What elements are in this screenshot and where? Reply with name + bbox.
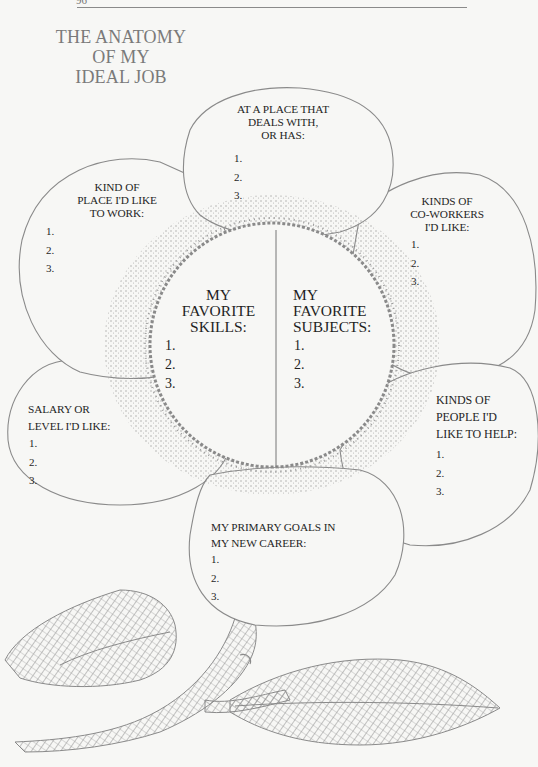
petal-lower-right-items: 1. 2. 3. — [436, 448, 444, 504]
petal-top-label: AT A PLACE THAT DEALS WITH, OR HAS: — [228, 103, 338, 142]
list-item[interactable]: 2. — [294, 357, 305, 376]
center-skills-label: MY FAVORITE SKILLS: — [180, 287, 257, 335]
list-item[interactable]: 3. — [294, 376, 305, 395]
label-line: DEALS WITH, — [228, 116, 338, 129]
label-line: PEOPLE I'D — [436, 409, 517, 426]
petal-bottom-items: 1. 2. 3. — [211, 553, 219, 609]
label-line: KIND OF — [62, 181, 172, 194]
label-line: MY — [293, 287, 371, 303]
label-line: AT A PLACE THAT — [228, 103, 338, 116]
list-item[interactable]: 2. — [211, 572, 219, 591]
list-item[interactable]: 1. — [411, 238, 419, 257]
list-item[interactable]: 1. — [234, 152, 242, 171]
petal-upper-left-label: KIND OF PLACE I'D LIKE TO WORK: — [62, 181, 172, 220]
list-item[interactable]: 1. — [294, 338, 305, 357]
list-item[interactable]: 1. — [211, 553, 219, 572]
label-line: LIKE TO HELP: — [436, 426, 517, 443]
list-item[interactable]: 2. — [436, 467, 444, 486]
petal-lower-left-items: 1. 2. 3. — [29, 437, 37, 493]
label-line: SUBJECTS: — [293, 319, 371, 335]
label-line: FAVORITE — [293, 303, 371, 319]
petal-top-items: 1. 2. 3. — [234, 152, 242, 208]
label-line: OR HAS: — [228, 129, 338, 142]
list-item[interactable]: 3. — [436, 485, 444, 504]
petal-bottom-label: MY PRIMARY GOALS IN MY NEW CAREER: — [211, 519, 335, 551]
list-item[interactable]: 1. — [436, 448, 444, 467]
center-subjects-label: MY FAVORITE SUBJECTS: — [293, 287, 371, 335]
label-line: PLACE I'D LIKE — [62, 194, 172, 207]
list-item[interactable]: 2. — [46, 244, 54, 263]
list-item[interactable]: 1. — [29, 437, 37, 456]
center-disc — [150, 223, 394, 467]
list-item[interactable]: 1. — [165, 338, 176, 357]
petal-lower-right-label: KINDS OF PEOPLE I'D LIKE TO HELP: — [436, 392, 517, 443]
list-item[interactable]: 3. — [211, 590, 219, 609]
petal-upper-left-items: 1. 2. 3. — [46, 225, 54, 281]
list-item[interactable]: 3. — [234, 189, 242, 208]
list-item[interactable]: 2. — [165, 357, 176, 376]
list-item[interactable]: 3. — [165, 376, 176, 395]
label-line: CO-WORKERS — [392, 208, 502, 221]
label-line: SALARY OR — [28, 403, 110, 416]
label-line: FAVORITE — [180, 303, 257, 319]
petal-upper-right-items: 1. 2. 3. — [411, 238, 419, 294]
label-line: KINDS OF — [392, 195, 502, 208]
petal-upper-right-label: KINDS OF CO-WORKERS I'D LIKE: — [392, 195, 502, 234]
label-line: SKILLS: — [180, 319, 257, 335]
center-skills-items: 1. 2. 3. — [165, 338, 176, 395]
label-line: MY PRIMARY GOALS IN — [211, 519, 335, 535]
center-subjects-items: 1. 2. 3. — [294, 338, 305, 395]
list-item[interactable]: 2. — [234, 171, 242, 190]
list-item[interactable]: 2. — [411, 257, 419, 276]
label-line: LEVEL I'D LIKE: — [28, 420, 110, 433]
list-item[interactable]: 3. — [46, 262, 54, 281]
list-item[interactable]: 1. — [46, 225, 54, 244]
list-item[interactable]: 3. — [29, 474, 37, 493]
list-item[interactable]: 3. — [411, 275, 419, 294]
label-line: MY — [180, 287, 257, 303]
label-line: MY NEW CAREER: — [211, 535, 335, 551]
petal-lower-left-label: SALARY OR LEVEL I'D LIKE: — [28, 403, 110, 433]
label-line: I'D LIKE: — [392, 221, 502, 234]
label-line: KINDS OF — [436, 392, 517, 409]
worksheet-page: 96 THE ANATOMY OF MY IDEAL JOB — [0, 0, 538, 767]
list-item[interactable]: 2. — [29, 456, 37, 475]
label-line: TO WORK: — [62, 207, 172, 220]
